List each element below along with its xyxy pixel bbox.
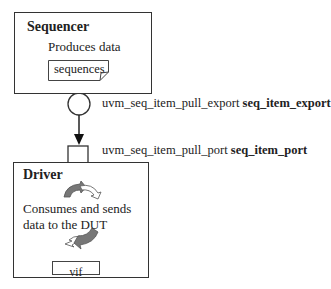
vif-box: vif bbox=[52, 261, 100, 275]
port-square bbox=[68, 146, 88, 163]
sequences-label: sequences bbox=[54, 62, 105, 77]
port-type: uvm_seq_item_pull_port bbox=[102, 143, 228, 157]
sequencer-description: Produces data bbox=[48, 39, 121, 55]
port-instance: seq_item_port bbox=[231, 143, 307, 157]
export-label: uvm_seq_item_pull_export seq_item_export bbox=[102, 96, 331, 111]
driver-block: Driver Consumes and sends data to the DU… bbox=[13, 162, 149, 278]
sequencer-block: Sequencer Produces data sequences bbox=[14, 12, 152, 94]
export-instance: seq_item_export bbox=[243, 96, 331, 110]
export-circle bbox=[68, 93, 90, 115]
port-label: uvm_seq_item_pull_port seq_item_port bbox=[102, 143, 307, 158]
export-type: uvm_seq_item_pull_export bbox=[102, 96, 239, 110]
driver-description-line1: Consumes and sends bbox=[23, 201, 131, 217]
sequences-box: sequences bbox=[48, 60, 109, 81]
driver-description-line2: data to the DUT bbox=[23, 217, 107, 233]
sequencer-title: Sequencer bbox=[27, 19, 89, 35]
arrow-head-icon bbox=[74, 134, 84, 145]
vif-label: vif bbox=[70, 266, 83, 278]
